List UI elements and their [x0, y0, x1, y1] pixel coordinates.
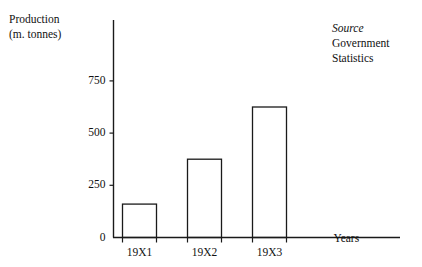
y-tick-label: 250 [60, 178, 106, 190]
bar-series [123, 107, 287, 238]
y-tick-label: 750 [60, 74, 106, 86]
x-tick-label: 19X1 [111, 246, 169, 258]
x-axis-ticks [123, 238, 287, 243]
bar [123, 204, 157, 237]
y-tick-label: 500 [60, 126, 106, 138]
bar [188, 159, 222, 237]
plot-area: 0250500750 19X119X219X3 Years [0, 0, 422, 267]
x-tick-label: 19X3 [241, 246, 299, 258]
x-tick-label: 19X2 [176, 246, 234, 258]
y-tick-label: 0 [60, 231, 106, 243]
bar [253, 107, 287, 238]
chart-figure: Production (m. tonnes) Source Government… [0, 0, 422, 267]
x-axis-title: Years [334, 232, 360, 244]
